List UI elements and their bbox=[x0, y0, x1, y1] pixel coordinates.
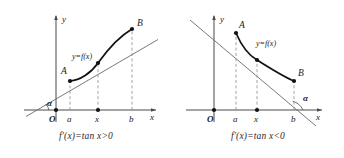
tick-label-x-increasing: x bbox=[94, 114, 99, 124]
y-axis-decreasing bbox=[212, 15, 216, 122]
tick-label-a-increasing: a bbox=[67, 114, 72, 124]
caption-decreasing: f′(x)=tan x<0 bbox=[172, 131, 344, 141]
x-axis-decreasing bbox=[186, 108, 322, 112]
x-axis-increasing bbox=[24, 108, 156, 112]
tick-label-x-decreasing: x bbox=[253, 114, 258, 124]
point-label-B-decreasing: B bbox=[298, 68, 304, 78]
tick-label-b-increasing: b bbox=[129, 114, 134, 124]
y-axis-label-increasing: y bbox=[61, 14, 66, 24]
point-B-decreasing bbox=[292, 79, 296, 83]
point-A-decreasing bbox=[234, 31, 238, 35]
origin-label-decreasing: O bbox=[207, 114, 214, 124]
point-A-increasing bbox=[68, 79, 72, 83]
point-mid-increasing bbox=[96, 61, 100, 65]
tick-label-a-decreasing: a bbox=[233, 114, 238, 124]
tick-dot-x-increasing bbox=[96, 108, 100, 112]
panel-decreasing: y x O a x b A B y=f(x) α f′(x)=tan x<0 bbox=[172, 0, 344, 158]
plot-increasing: y x O a x b A B y=f(x) α bbox=[0, 0, 172, 132]
origin-dot-decreasing bbox=[212, 108, 216, 112]
point-label-A-decreasing: A bbox=[238, 20, 245, 30]
origin-dot-increasing bbox=[54, 108, 58, 112]
y-axis-increasing bbox=[54, 15, 58, 122]
y-axis-label-decreasing: y bbox=[219, 14, 224, 24]
point-mid-decreasing bbox=[255, 58, 259, 62]
point-label-B-increasing: B bbox=[137, 18, 143, 28]
tick-dot-x-decreasing bbox=[255, 108, 259, 112]
x-axis-label-decreasing: x bbox=[315, 112, 320, 122]
derivative-sign-figure-pair: y x O a x b A B y=f(x) α f′(x)=tan x>0 bbox=[0, 0, 344, 158]
x-axis-label-increasing: x bbox=[149, 112, 154, 122]
point-label-A-increasing: A bbox=[60, 66, 67, 76]
angle-label-decreasing: α bbox=[303, 93, 309, 103]
caption-increasing: f′(x)=tan x>0 bbox=[0, 131, 172, 141]
curve-label-decreasing: y=f(x) bbox=[255, 39, 276, 48]
angle-label-increasing: α bbox=[47, 98, 53, 108]
point-B-increasing bbox=[130, 27, 134, 31]
curve-label-increasing: y=f(x) bbox=[71, 52, 92, 61]
tick-label-b-decreasing: b bbox=[291, 114, 296, 124]
plot-decreasing: y x O a x b A B y=f(x) α bbox=[172, 0, 344, 132]
panel-increasing: y x O a x b A B y=f(x) α f′(x)=tan x>0 bbox=[0, 0, 172, 158]
origin-label-increasing: O bbox=[49, 114, 56, 124]
